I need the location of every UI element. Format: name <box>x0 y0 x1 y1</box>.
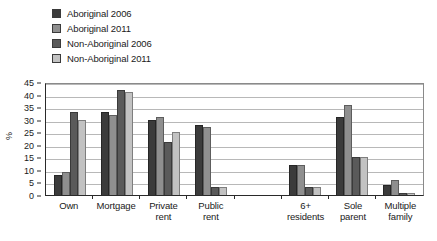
bar-group <box>282 84 329 195</box>
y-axis-tick-label: 10 <box>24 166 34 175</box>
bar <box>109 115 117 195</box>
x-axis-tick-mark <box>328 195 329 199</box>
x-axis-tick-mark <box>281 195 282 199</box>
legend-label: Aboriginal 2006 <box>67 9 132 19</box>
bar <box>164 142 172 195</box>
y-axis-tick-mark <box>37 170 41 171</box>
legend-swatch-non-aboriginal-2011 <box>52 54 61 63</box>
bar <box>172 132 180 195</box>
y-axis-tick-label: 25 <box>24 129 34 138</box>
bar <box>407 193 415 196</box>
y-axis-tick-label: 40 <box>24 91 34 100</box>
bar <box>391 180 399 195</box>
bar-groups <box>46 84 423 195</box>
y-axis-tick-mark <box>37 158 41 159</box>
legend-label: Aboriginal 2011 <box>67 24 131 34</box>
legend-label: Non-Aboriginal 2011 <box>67 54 151 64</box>
y-axis-tick-mark <box>37 120 41 121</box>
x-axis-label: Soleparent <box>329 200 376 222</box>
y-axis-tick-mark <box>37 183 41 184</box>
y-axis-tick-label: 35 <box>24 104 34 113</box>
legend-swatch-aboriginal-2011 <box>52 24 61 33</box>
y-axis-tick-label: 30 <box>24 116 34 125</box>
y-axis-tick-mark <box>37 133 41 134</box>
bar <box>211 187 219 195</box>
bar <box>399 193 407 196</box>
bar-group <box>376 84 423 195</box>
y-axis-tick-mark <box>37 108 41 109</box>
x-axis-labels: OwnMortgagePrivaterentPublicrent6+reside… <box>45 200 424 222</box>
bar <box>289 165 297 195</box>
legend-item: Aboriginal 2011 <box>52 22 152 35</box>
y-axis-tick-mark <box>37 145 41 146</box>
legend-item: Aboriginal 2006 <box>52 7 152 20</box>
bar-group <box>235 84 282 195</box>
bar <box>352 157 360 195</box>
y-axis-tick-label: 15 <box>24 154 34 163</box>
x-axis-tick-mark <box>92 195 93 199</box>
bar <box>148 120 156 195</box>
x-axis-tick-mark <box>234 195 235 199</box>
legend-label: Non-Aboriginal 2006 <box>67 39 152 49</box>
bar <box>219 187 227 195</box>
x-axis-label: 6+residents <box>282 200 329 222</box>
bar <box>62 172 70 195</box>
y-axis-tick-label: 45 <box>24 79 34 88</box>
bar <box>336 117 344 195</box>
y-axis-tick-label: 5 <box>29 179 34 188</box>
x-axis-label: Privaterent <box>140 200 187 222</box>
bar-group <box>140 84 187 195</box>
legend-swatch-non-aboriginal-2006 <box>52 39 61 48</box>
x-axis-tick-mark <box>186 195 187 199</box>
y-axis-tick-mark <box>37 83 41 84</box>
bar <box>313 187 321 195</box>
bar <box>360 157 368 195</box>
x-axis-tick-mark <box>139 195 140 199</box>
bar <box>125 92 133 195</box>
bar <box>156 117 164 195</box>
bar <box>70 112 78 195</box>
bar <box>383 185 391 195</box>
bar-group <box>329 84 376 195</box>
x-axis-tick-mark <box>375 195 376 199</box>
bar <box>117 90 125 195</box>
bar <box>54 175 62 195</box>
bar-group <box>46 84 93 195</box>
bar <box>195 125 203 195</box>
bar <box>305 187 313 195</box>
bar-group <box>187 84 234 195</box>
y-axis-tick-mark <box>37 95 41 96</box>
x-axis-label: Multiplefamily <box>377 200 424 222</box>
bar <box>203 127 211 195</box>
bar <box>78 120 86 195</box>
plot-area <box>45 83 424 196</box>
x-axis-label: Own <box>45 200 92 222</box>
x-axis-label <box>235 200 282 222</box>
legend-item: Non-Aboriginal 2011 <box>52 52 152 65</box>
bar-group <box>93 84 140 195</box>
legend-swatch-aboriginal-2006 <box>52 9 61 18</box>
chart-legend: Aboriginal 2006 Aboriginal 2011 Non-Abor… <box>52 7 152 65</box>
x-axis-label: Mortgage <box>92 200 139 222</box>
y-axis-tick-label: 20 <box>24 141 34 150</box>
y-axis-tick-mark <box>37 196 41 197</box>
y-axis-tick-label: 0 <box>29 192 34 201</box>
legend-item: Non-Aboriginal 2006 <box>52 37 152 50</box>
bar <box>297 165 305 195</box>
bar <box>101 112 109 195</box>
x-axis-label: Publicrent <box>187 200 234 222</box>
bar <box>344 105 352 195</box>
bar-chart: Aboriginal 2006 Aboriginal 2011 Non-Abor… <box>0 0 437 241</box>
y-axis-ticks: 051015202530354045 <box>0 83 41 196</box>
